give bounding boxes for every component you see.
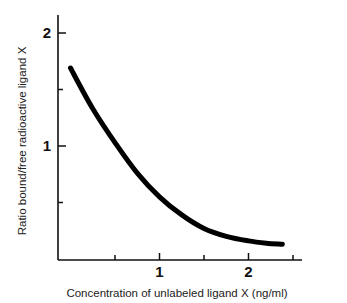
y-tick-label: 1 (43, 137, 51, 154)
data-curve (71, 68, 283, 244)
y-ticks: 12 (43, 24, 66, 203)
x-axis-label: Concentration of unlabeled ligand X (ng/… (66, 287, 287, 299)
x-tick-label: 1 (155, 263, 163, 280)
y-tick-label: 2 (43, 24, 51, 41)
axes (58, 15, 302, 260)
chart: 12 12 Concentration of unlabeled ligand … (0, 0, 347, 303)
y-axis-label: Ratio bound/free radioactive ligand X (16, 46, 28, 235)
x-ticks: 12 (115, 253, 293, 280)
x-tick-label: 2 (244, 263, 252, 280)
